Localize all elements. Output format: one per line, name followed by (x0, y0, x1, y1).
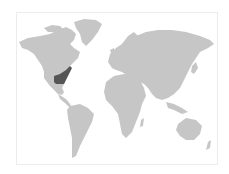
continent-north-america (19, 27, 80, 95)
landmass-greenland (74, 19, 102, 46)
landmass-madagascar (140, 118, 144, 127)
continent-australia (176, 118, 202, 140)
landmass-central-america (58, 94, 72, 108)
world-map (0, 0, 229, 174)
continent-africa (104, 74, 146, 138)
continent-south-america (67, 104, 94, 158)
landmass-new-zealand (206, 140, 211, 150)
landmass-southeast-asia-islands (166, 102, 188, 114)
